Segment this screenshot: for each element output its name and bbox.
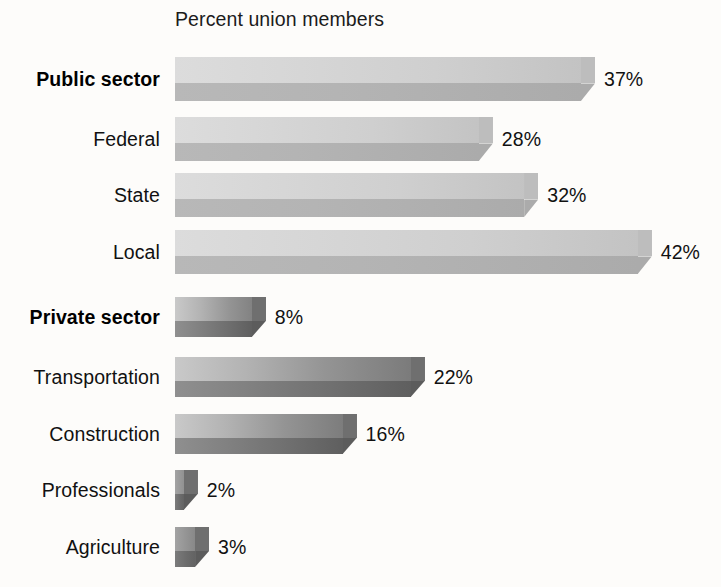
bar-bevel-top: [524, 173, 538, 199]
bar-face-top: [175, 357, 425, 381]
bar-body: [175, 470, 198, 510]
bar-body: [175, 414, 357, 454]
bar-bevel-bottom: [581, 83, 595, 101]
bar-category-label: Local: [113, 242, 160, 262]
bar-bevel-bottom: [343, 438, 357, 454]
bar-bevel-bottom: [184, 494, 198, 510]
bar-value-label: 37%: [604, 69, 643, 89]
bar-row: Public sector37%: [0, 57, 721, 101]
bar-bevel-bottom: [524, 199, 538, 217]
bar-category-label: Professionals: [42, 480, 160, 500]
bar-value-label: 3%: [218, 537, 246, 557]
chart-canvas: Percent union members Public sector37%Fe…: [0, 0, 721, 587]
bar-face-bottom: [175, 199, 524, 217]
bar-value-label: 32%: [547, 185, 586, 205]
bar-professionals: [175, 470, 198, 510]
bar-value-label: 2%: [207, 480, 235, 500]
bar-body: [175, 297, 266, 337]
bar-row: Agriculture3%: [0, 527, 721, 567]
bar-category-label: State: [114, 185, 160, 205]
bar-value-label: 8%: [275, 307, 303, 327]
bar-public-sector: [175, 57, 595, 101]
bar-face-bottom: [175, 438, 343, 454]
bar-face-top: [175, 57, 595, 83]
bar-bevel-bottom: [638, 256, 652, 274]
bar-bevel-bottom: [479, 143, 493, 161]
bar-face-top: [175, 173, 538, 199]
bar-row: Local42%: [0, 230, 721, 274]
bar-transportation: [175, 357, 425, 397]
bar-bevel-top: [195, 527, 209, 551]
bar-construction: [175, 414, 357, 454]
bar-face-bottom: [175, 143, 479, 161]
bar-agriculture: [175, 527, 209, 567]
bar-face-top: [175, 230, 652, 256]
bar-row: Construction16%: [0, 414, 721, 454]
bar-face-bottom: [175, 381, 411, 397]
bar-bevel-top: [479, 117, 493, 143]
bar-face-top: [175, 117, 493, 143]
bar-bevel-bottom: [411, 381, 425, 397]
bar-private-sector: [175, 297, 266, 337]
bar-bevel-top: [411, 357, 425, 381]
bar-row: Federal28%: [0, 117, 721, 161]
bar-row: State32%: [0, 173, 721, 217]
bar-face-bottom: [175, 494, 184, 510]
bar-category-label: Agriculture: [66, 537, 160, 557]
bar-category-label: Federal: [93, 129, 160, 149]
bar-face-top: [175, 414, 357, 438]
bar-bevel-top: [343, 414, 357, 438]
bar-body: [175, 527, 209, 567]
bar-body: [175, 357, 425, 397]
bar-category-label: Construction: [49, 424, 160, 444]
chart-title: Percent union members: [175, 7, 384, 31]
bar-row: Private sector8%: [0, 297, 721, 337]
bar-face-bottom: [175, 256, 638, 274]
bar-state: [175, 173, 538, 217]
bar-row: Professionals2%: [0, 470, 721, 510]
bar-body: [175, 173, 538, 217]
bar-federal: [175, 117, 493, 161]
bar-category-label: Private sector: [30, 307, 160, 327]
bar-face-bottom: [175, 321, 252, 337]
bar-bevel-top: [581, 57, 595, 83]
bar-body: [175, 117, 493, 161]
bar-bevel-top: [184, 470, 198, 494]
bar-bevel-bottom: [195, 551, 209, 567]
bar-face-bottom: [175, 83, 581, 101]
bar-face-bottom: [175, 551, 195, 567]
bar-row: Transportation22%: [0, 357, 721, 397]
bar-bevel-top: [252, 297, 266, 321]
bar-bevel-top: [638, 230, 652, 256]
bar-category-label: Transportation: [34, 367, 160, 387]
bar-value-label: 28%: [502, 129, 541, 149]
bar-value-label: 16%: [366, 424, 405, 444]
bar-bevel-bottom: [252, 321, 266, 337]
bar-value-label: 22%: [434, 367, 473, 387]
bar-value-label: 42%: [661, 242, 700, 262]
bar-category-label: Public sector: [36, 69, 160, 89]
bar-body: [175, 230, 652, 274]
bar-body: [175, 57, 595, 101]
bar-local: [175, 230, 652, 274]
